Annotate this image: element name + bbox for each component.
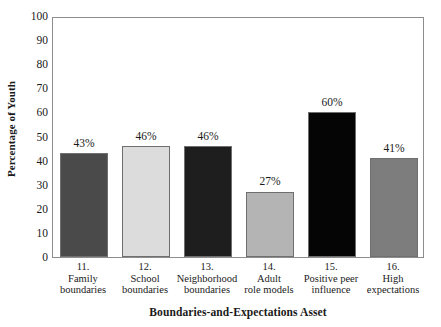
bar-value-label: 60% — [308, 97, 356, 109]
category-number: 14. — [238, 261, 300, 273]
x-axis-category-label: 15.Positive peerinfluence — [300, 261, 362, 296]
category-text-line: School — [114, 273, 176, 285]
y-axis-tick: 30 — [22, 180, 48, 192]
x-axis-category-label: 12.Schoolboundaries — [114, 261, 176, 296]
bar-group: 27% — [246, 18, 294, 257]
category-number: 15. — [300, 261, 362, 273]
bar[interactable] — [308, 112, 356, 257]
x-axis-category-label: 13.Neighborhoodboundaries — [176, 261, 238, 296]
bar-group: 60% — [308, 18, 356, 257]
bar-group: 46% — [184, 18, 232, 257]
y-axis-tick: 40 — [22, 156, 48, 168]
x-axis-category-label: 11.Familyboundaries — [52, 261, 114, 296]
y-axis-tick: 50 — [22, 132, 48, 144]
category-number: 12. — [114, 261, 176, 273]
bar-value-label: 43% — [60, 138, 108, 150]
category-text-line: boundaries — [114, 284, 176, 296]
y-axis-tick: 20 — [22, 204, 48, 216]
bar[interactable] — [370, 158, 418, 257]
category-number: 11. — [52, 261, 114, 273]
x-axis-category-label: 14.Adultrole models — [238, 261, 300, 296]
category-text-line: Family — [52, 273, 114, 285]
bar-value-label: 46% — [184, 131, 232, 143]
bar-group: 43% — [60, 18, 108, 257]
category-text-line: influence — [300, 284, 362, 296]
category-text-line: expectations — [362, 284, 424, 296]
x-axis-category-label: 16.Highexpectations — [362, 261, 424, 296]
category-text-line: boundaries — [176, 284, 238, 296]
y-axis-tick: 60 — [22, 108, 48, 120]
y-axis-tick: 80 — [22, 59, 48, 71]
y-axis-tick: 100 — [22, 11, 48, 23]
bar[interactable] — [246, 192, 294, 257]
category-text-line: role models — [238, 284, 300, 296]
y-axis-tick: 0 — [22, 252, 48, 264]
y-axis-tick: 70 — [22, 84, 48, 96]
category-text-line: boundaries — [52, 284, 114, 296]
plot-area: 43%46%46%27%60%41% — [52, 17, 424, 258]
bar-chart-figure: Percentage of Youth 10090807060504030201… — [0, 0, 441, 327]
y-axis-tick-labels: 1009080706050403020100 — [22, 17, 48, 258]
category-text-line: Adult — [238, 273, 300, 285]
bar[interactable] — [60, 153, 108, 257]
x-axis-category-labels: 11.Familyboundaries12.Schoolboundaries13… — [52, 261, 424, 303]
category-text-line: Positive peer — [300, 273, 362, 285]
bar-group: 46% — [122, 18, 170, 257]
bar-value-label: 27% — [246, 176, 294, 188]
bar-value-label: 46% — [122, 131, 170, 143]
bars-container: 43%46%46%27%60%41% — [53, 18, 423, 257]
x-axis-title: Boundaries-and-Expectations Asset — [52, 306, 424, 318]
y-axis-title: Percentage of Youth — [2, 0, 20, 258]
category-text-line: High — [362, 273, 424, 285]
category-text-line: Neighborhood — [176, 273, 238, 285]
y-axis-tick: 90 — [22, 35, 48, 47]
y-axis-tick: 10 — [22, 228, 48, 240]
bar[interactable] — [122, 146, 170, 257]
category-number: 13. — [176, 261, 238, 273]
bar[interactable] — [184, 146, 232, 257]
bar-group: 41% — [370, 18, 418, 257]
category-number: 16. — [362, 261, 424, 273]
bar-value-label: 41% — [370, 143, 418, 155]
